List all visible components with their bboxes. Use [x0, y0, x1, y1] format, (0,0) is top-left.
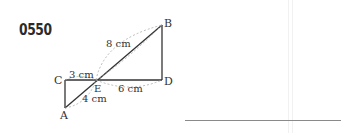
- label-B: B: [164, 17, 172, 30]
- answer-line[interactable]: [185, 120, 341, 121]
- label-A: A: [59, 109, 69, 122]
- measure-CE: 3 cm: [69, 69, 94, 80]
- measure-BE: 8 cm: [106, 38, 131, 49]
- label-D: D: [164, 75, 173, 88]
- margin-guide: [292, 0, 293, 133]
- margin-guide: [288, 0, 289, 133]
- label-C: C: [54, 74, 62, 87]
- geometry-figure: B C D E A 8 cm 3 cm 6 cm 4 cm: [0, 0, 354, 133]
- measure-AE: 4 cm: [82, 93, 107, 104]
- measure-ED: 6 cm: [118, 83, 143, 94]
